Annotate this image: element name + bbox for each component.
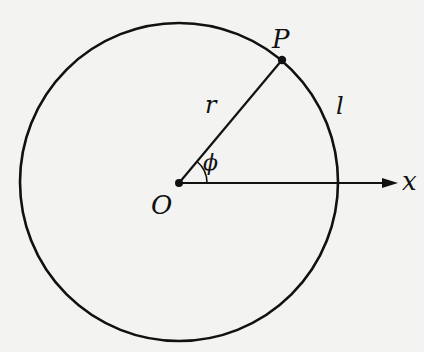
label-x: x [402,168,417,194]
label-O: O [151,192,172,218]
label-phi: ϕ [203,152,218,174]
center-point-O [175,179,183,187]
label-r: r [205,93,216,117]
point-P [278,56,286,64]
diagram-canvas [0,0,424,352]
label-P: P [272,26,290,52]
label-l: l [336,94,344,118]
x-axis-arrowhead-icon [382,178,398,188]
radius-line-r [179,60,282,183]
